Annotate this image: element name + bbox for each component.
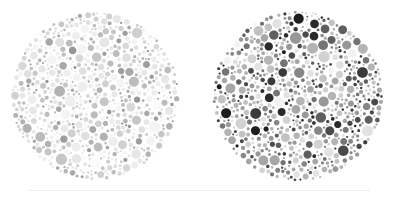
ishihara-plate-right-canvas (212, 10, 384, 182)
ishihara-plate-left (10, 11, 180, 181)
horizontal-separator-rule (28, 190, 370, 191)
ishihara-plate-right (212, 10, 384, 182)
ishihara-plate-left-canvas (10, 11, 180, 181)
ishihara-plate-figure (0, 0, 398, 204)
